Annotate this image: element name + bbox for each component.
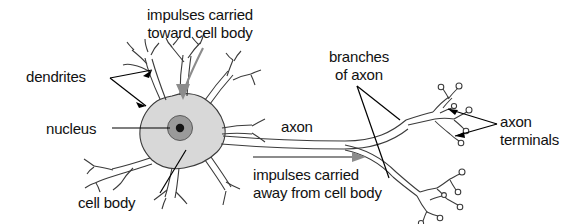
label-nucleus: nucleus <box>46 120 110 138</box>
label-branches-of-axon: branches of axon <box>316 48 402 83</box>
leader-line-dendrites <box>110 70 152 108</box>
label-impulses-carried-toward-cell-body: impulses carried toward cell body <box>126 6 274 41</box>
label-cell-body: cell body <box>78 194 158 212</box>
arrow-impulses-away-from-cell-body <box>253 152 366 162</box>
label-impulses-carried-away-from-cell-body: impulses carried away from cell body <box>253 166 417 201</box>
label-dendrites: dendrites <box>26 68 108 86</box>
label-axon: axon <box>281 118 325 136</box>
leader-line-axon-terminals <box>448 109 497 138</box>
nucleus-organelle <box>168 116 193 141</box>
neuron-diagram-figure: impulses carried toward cell body dendri… <box>0 0 574 224</box>
dendrite-trees-upper <box>123 33 261 104</box>
label-axon-terminals: axon terminals <box>500 113 572 148</box>
